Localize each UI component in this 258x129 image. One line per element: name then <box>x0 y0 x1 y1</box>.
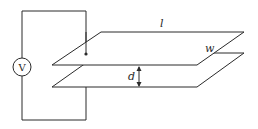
capacitor-diagram: V l w d <box>0 0 258 129</box>
connection-dot <box>84 52 87 55</box>
width-label: w <box>205 42 215 55</box>
source-label: V <box>17 62 26 73</box>
separation-label: d <box>128 70 135 83</box>
length-label: l <box>160 17 164 30</box>
voltage-source: V <box>13 58 31 76</box>
